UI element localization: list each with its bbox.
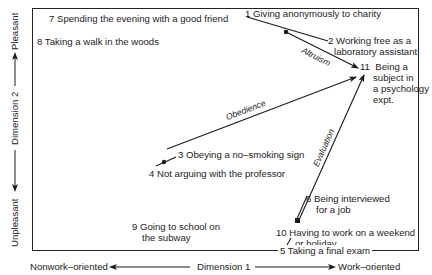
item-8-label: 8 Taking a walk in the woods [37, 36, 159, 47]
item-9-label: 9 Going to school on the subway [132, 221, 220, 243]
y-axis-unpleasant-label: Unpleasant [9, 198, 20, 247]
x-axis-title: Dimension 1 [197, 261, 250, 272]
y-axis-pleasant-label: Pleasant [9, 13, 20, 50]
item-6-label: 6 Being interviewed for a job [306, 193, 390, 215]
obedience-origin-dot [162, 160, 166, 164]
item-4-label: 4 Not arguing with the professor [149, 168, 285, 179]
x-axis-work-label: Work–oriented [338, 261, 400, 272]
x-axis-nonwork-label: Nonwork–oriented [30, 261, 108, 272]
item-7-label: 7 Spending the evening with a good frien… [49, 13, 228, 24]
evaluation-origin-square [295, 218, 300, 223]
item-5-label: 5 Taking a final exam [278, 245, 372, 256]
item-3-label: 3 Obeying a no–smoking sign [178, 149, 304, 160]
line-1-to-2 [247, 17, 328, 41]
item-2-label: 2 Working free as a laboratory assistant [328, 35, 417, 57]
item-1-label: 1 Giving anonymously to charity [245, 8, 381, 19]
item-11-label: 11 Being a subject in a psychology expt. [360, 61, 429, 105]
y-axis-title: Dimension 2 [9, 92, 20, 145]
